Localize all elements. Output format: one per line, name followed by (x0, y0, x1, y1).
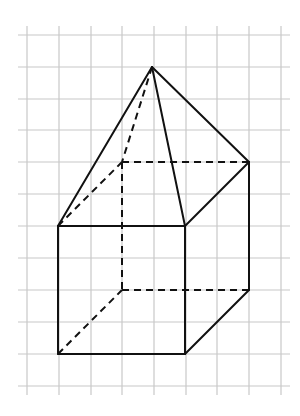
pyramid-on-cube-diagram (0, 0, 300, 416)
